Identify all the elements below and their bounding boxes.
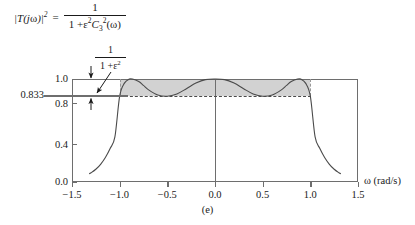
x-tick-mark-0-5 [263,182,264,187]
x-tick-label-0-0: 0.0 [198,190,232,201]
x-axis-title: ω (rad/s) [364,176,401,187]
y-label-0833: 0.833 [8,90,44,101]
x-tick-label--0-5: −0.5 [150,190,184,201]
ripple-annotation-fraction: 1 1 +ε2 [95,45,126,71]
y-tick-label-1-0: 1.0 [42,74,68,85]
formula-numerator: 1 [87,2,103,15]
x-tick-mark--1-5 [72,182,73,187]
y-tick-mark-0-4 [72,144,77,145]
x-tick-mark-1-0 [310,182,311,187]
response-curve-path [89,79,341,174]
figure-chebyshev-response: |T(jω)|2 = 1 1 +ε2C32(ω) 1 1 +ε2 0.833 [0,0,415,225]
x-tick-label--1-5: −1.5 [55,190,89,201]
y-tick-mark-1-0 [72,79,77,80]
y-tick-mark-0-8 [72,103,77,104]
x-tick-label-1-0: 1.0 [293,190,327,201]
x-tick-mark--0-5 [167,182,168,187]
ripple-annotation-denominator: 1 +ε2 [95,58,126,72]
y-tick-label-0-0: 0.0 [42,177,68,188]
x-tick-label--1-0: −1.0 [103,190,137,201]
x-tick-label-1-5: 1.5 [341,190,375,201]
x-tick-mark-1-5 [358,182,359,187]
ripple-annotation-numerator: 1 [103,45,118,57]
ripple-annotation-label: 1 1 +ε2 [95,45,126,71]
x-tick-mark--1-0 [120,182,121,187]
formula-denominator: 1 +ε2C32(ω) [64,16,126,33]
formula-lhs: |T(jω)|2 [14,11,48,24]
formula-equals: = [53,12,59,23]
figure-caption: (e) [0,205,415,216]
y-tick-label-0-4: 0.4 [42,140,68,151]
transfer-function-formula: |T(jω)|2 = 1 1 +ε2C32(ω) [14,2,126,32]
formula-fraction: 1 1 +ε2C32(ω) [64,2,126,32]
x-tick-label-0-5: 0.5 [246,190,280,201]
y-tick-label-0-8: 0.8 [42,99,68,110]
x-tick-mark-0-0 [215,182,216,187]
